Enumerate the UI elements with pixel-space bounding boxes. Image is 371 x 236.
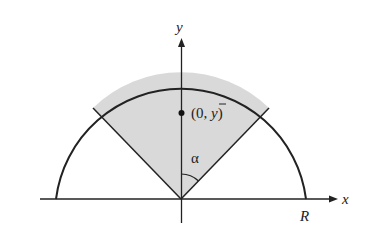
centroid-label-var: y bbox=[209, 105, 218, 121]
centroid-label: (0, y) bbox=[191, 105, 223, 122]
radius-label: R bbox=[299, 208, 309, 224]
x-axis-arrow-icon bbox=[329, 196, 338, 203]
centroid-point bbox=[179, 110, 185, 116]
centroid-label-close: ) bbox=[218, 105, 223, 122]
angle-label: α bbox=[191, 150, 199, 166]
y-axis-label: y bbox=[174, 19, 183, 35]
sector-centroid-diagram: y x R α (0, y) bbox=[0, 0, 371, 236]
centroid-label-open: (0, bbox=[191, 105, 211, 122]
y-axis-arrow-icon bbox=[178, 38, 185, 47]
x-axis-label: x bbox=[341, 191, 349, 207]
